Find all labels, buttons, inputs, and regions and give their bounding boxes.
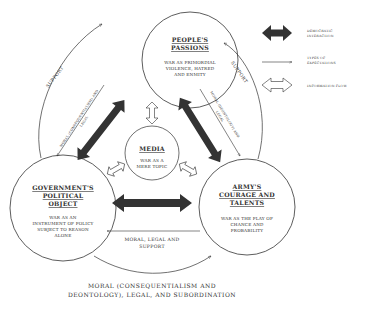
government-desc-2: INSTRUMENT OF POLICY (32, 221, 93, 226)
army-title-3: TALENTS (230, 199, 265, 206)
people-desc-3: AND ENMITY (173, 72, 206, 77)
army-desc-1: WAR AS THE PLAY OF (221, 216, 273, 221)
army-gov-label-2: SUPPORT (139, 244, 165, 249)
legend-democratic-label-2: INTERACTION (307, 34, 334, 38)
government-title-3: OBJECT (49, 200, 78, 208)
info-arrow-people-media (146, 102, 158, 124)
legend-democratic-icon (262, 25, 292, 41)
army-desc-2: CHANCE AND (230, 222, 264, 227)
info-arrow-army-media (177, 159, 200, 179)
trinity-diagram: DEMOCRATIC INTERACTION TYPES OF EXPECTAT… (0, 0, 379, 310)
government-circle (10, 155, 116, 261)
democratic-arrow-gov-army (112, 194, 192, 212)
government-desc-4: ALONE (54, 233, 72, 238)
legend-expectation-label-2: EXPECTATIONS (307, 61, 336, 65)
bottom-label-1: MORAL (CONSEQUENTIALISM AND (88, 282, 216, 289)
bottom-curve-arrow (94, 256, 211, 273)
people-title-2: PASSIONS (171, 44, 209, 51)
support-left-label: SUPPORT (45, 65, 65, 89)
legend-democratic-label-1: DEMOCRATIC (307, 29, 333, 33)
government-title-2: POLITICAL (43, 192, 84, 199)
democratic-arrow-gov-people (71, 95, 130, 165)
government-desc-1: WAR AS AN (49, 215, 76, 220)
people-title-1: PEOPLE'S (172, 36, 209, 43)
media-circle (125, 126, 179, 180)
media-title: MEDIA (139, 145, 165, 152)
army-circle (199, 159, 295, 255)
government-desc-3: SUBJECT TO REASON (37, 227, 89, 232)
info-arrow-gov-media (105, 159, 128, 179)
media-desc-2: MERE TOPIC (137, 164, 168, 169)
legend-expectation-label-1: TYPES OF (307, 56, 326, 60)
army-desc-3: PROBABILITY (231, 228, 263, 233)
people-desc-1: WAR AS PRIMORDIAL (164, 60, 216, 65)
army-gov-label-1: MORAL, LEGAL AND (125, 237, 180, 242)
government-title-1: GOVERNMENT'S (32, 184, 94, 191)
army-title-2: COURAGE AND (219, 191, 275, 198)
legend: DEMOCRATIC INTERACTION TYPES OF EXPECTAT… (262, 25, 347, 92)
bottom-label-2: DEONTOLOGY), LEGAL, AND SUBORDINATION (68, 291, 236, 298)
legend-information-label: INFORMATION FLOW (307, 84, 347, 88)
legend-information-icon (262, 78, 292, 92)
people-desc-2: VIOLENCE, HATRED (165, 66, 215, 71)
army-title-1: ARMY'S (232, 183, 262, 190)
people-army-label-1: MORAL (DEONTOLOGY) AND (209, 90, 240, 138)
media-desc-1: WAR AS A (140, 158, 164, 163)
